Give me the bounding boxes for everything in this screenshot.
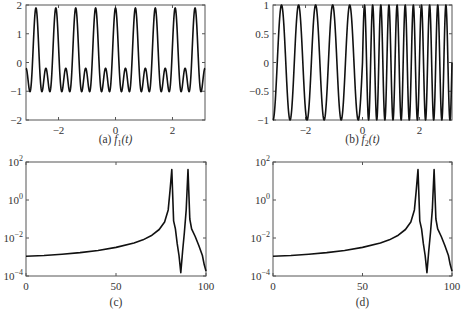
y-tick-label: 1 — [17, 28, 23, 40]
x-tick-label: 100 — [198, 280, 215, 292]
plot-d-spectrum: 05010010−410−2100102(d) — [250, 154, 460, 309]
plot-caption: (d) — [356, 296, 370, 309]
x-tick-label: −2 — [300, 124, 312, 136]
data-line — [273, 5, 452, 120]
y-tick-label: 102 — [8, 154, 23, 168]
y-tick-label: 0.5 — [255, 28, 269, 40]
y-tick-label: −1 — [257, 114, 269, 126]
x-tick-label: 2 — [417, 124, 423, 136]
y-tick-label: −0.5 — [249, 85, 269, 97]
y-tick-label: 1 — [264, 0, 270, 11]
x-tick-label: 50 — [357, 280, 369, 292]
plot-b-f2: −202−1−0.500.51(b) f2(t) — [249, 0, 452, 148]
data-line — [26, 8, 205, 92]
data-line — [273, 170, 452, 273]
plot-caption: (c) — [110, 296, 123, 309]
y-tick-label: 100 — [8, 192, 23, 206]
plot-c-spectrum: 05010010−410−2100102(c) — [3, 154, 214, 309]
plot-caption: (b) f2(t) — [345, 133, 380, 148]
x-tick-label: 2 — [170, 124, 176, 136]
y-tick-label: 0 — [17, 57, 23, 69]
y-tick-label: 10−4 — [250, 268, 270, 282]
y-tick-label: −2 — [10, 114, 22, 126]
y-tick-label: 10−2 — [3, 230, 23, 244]
x-tick-label: 100 — [444, 280, 461, 292]
y-tick-label: 10−2 — [250, 230, 270, 244]
x-tick-label: 0 — [270, 280, 276, 292]
y-tick-label: −1 — [10, 85, 22, 97]
x-tick-label: −2 — [53, 124, 65, 136]
figure-canvas: −202−2−1012(a) f1(t) −202−1−0.500.51(b) … — [0, 0, 463, 318]
y-tick-label: 102 — [255, 154, 270, 168]
y-tick-label: 2 — [17, 0, 23, 11]
plot-caption: (a) f1(t) — [99, 133, 133, 148]
x-tick-label: 50 — [111, 280, 123, 292]
y-tick-label: 0 — [264, 57, 270, 69]
data-line — [26, 170, 206, 273]
plot-a-f1: −202−2−1012(a) f1(t) — [10, 0, 205, 148]
y-tick-label: 100 — [255, 192, 270, 206]
x-tick-label: 0 — [23, 280, 29, 292]
y-tick-label: 10−4 — [3, 268, 23, 282]
